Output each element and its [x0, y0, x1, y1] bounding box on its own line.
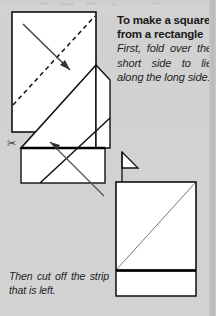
page-right-edge-shadow [209, 0, 216, 316]
instruction-body: First, fold over the short side to lie a… [117, 41, 212, 85]
instruction-heading: To make a square from a rectangle [117, 14, 212, 41]
instruction-heading-line-1: To make a square [117, 14, 212, 28]
step2-remaining-strip [21, 148, 105, 183]
step3-upper-flap [122, 152, 138, 168]
instruction-caption: Then cut off the strip that is left. [9, 269, 109, 297]
step2-flap-tail [96, 65, 110, 148]
diagram-step-3 [116, 152, 196, 296]
instruction-text-block: To make a square from a rectangle First,… [117, 14, 212, 85]
scissors-icon: ✂ [7, 137, 20, 149]
step3-cut-strip [116, 271, 196, 296]
origami-instruction-page: ✂ To make a square from a rectangle Firs… [0, 0, 216, 316]
instruction-heading-line-2: from a rectangle [117, 28, 212, 42]
